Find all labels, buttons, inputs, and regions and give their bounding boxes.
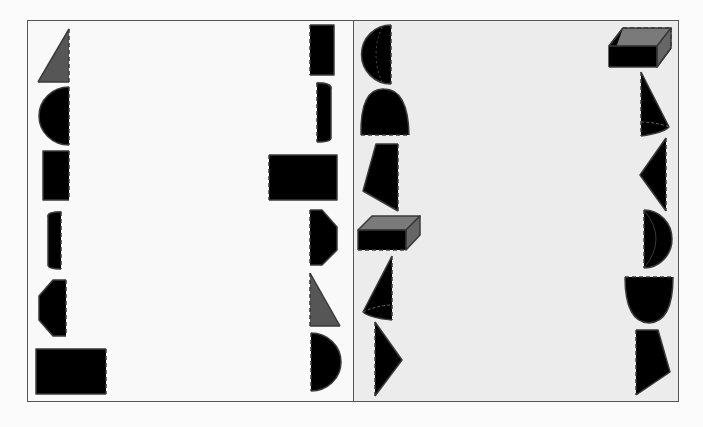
rectangle-wide-right <box>269 155 337 200</box>
triangle-left <box>375 322 402 396</box>
bowl-right <box>625 277 673 323</box>
semicircle-left <box>39 87 69 145</box>
rectangle-small-left <box>43 151 69 200</box>
shapes-canvas <box>0 0 703 427</box>
half-hexagon-right <box>310 210 337 265</box>
half-cylinder-left <box>48 212 61 269</box>
half-cone-left <box>363 256 392 320</box>
triangle-dark-right <box>310 273 340 326</box>
hemisphere-right <box>644 210 672 268</box>
semicircle-right <box>311 333 341 391</box>
hemisphere-left <box>362 25 392 84</box>
half-cylinder-right <box>317 83 331 142</box>
quadrilateral-right <box>636 330 670 395</box>
rectangle-large-left <box>36 349 106 394</box>
triangle-dark-left <box>38 29 69 82</box>
prism-left <box>358 216 420 250</box>
half-hexagon-left <box>39 280 66 336</box>
triangle-right <box>640 138 666 211</box>
trapezoid-left <box>363 144 398 211</box>
paraboloid-left <box>361 89 409 135</box>
half-cone-right <box>641 72 669 136</box>
prism-right <box>609 28 671 67</box>
rectangle-small-right <box>310 25 334 75</box>
